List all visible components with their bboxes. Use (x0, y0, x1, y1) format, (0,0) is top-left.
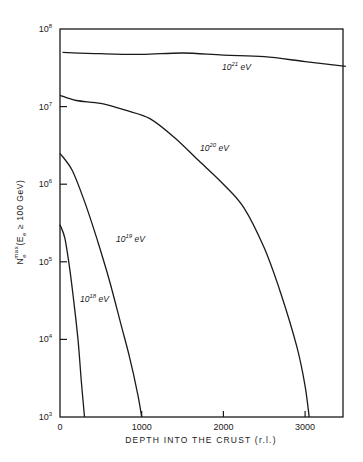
y-tick-label: 105 (39, 256, 53, 267)
y-tick-label: 103 (39, 411, 53, 422)
curve-20-ev (60, 95, 309, 417)
x-axis-title: DEPTH INTO THE CRUST (r.l.) (125, 435, 276, 445)
y-tick-label: 104 (39, 333, 53, 344)
curve-label-18-ev: 1018 eV (80, 293, 110, 304)
plot-area-border (60, 29, 343, 417)
x-tick-label: 2000 (213, 422, 233, 432)
x-tick-label: 0 (57, 422, 62, 432)
plot-frame (60, 29, 343, 417)
svg-text:Nemax(Ee ≥ 100 GeV): Nemax(Ee ≥ 100 GeV) (13, 180, 27, 265)
curve-label-19-ev: 1019 eV (116, 233, 146, 244)
y-tick-label: 108 (39, 23, 53, 34)
y-tick-label: 107 (39, 101, 53, 112)
curve-18-ev (60, 225, 85, 417)
curve-21-ev (62, 52, 345, 66)
curve-label-20-ev: 1020 eV (200, 142, 230, 153)
curve-label-21-ev: 1021 eV (222, 61, 252, 72)
chart: 1031041051061071080100020003000 1021 eV1… (0, 0, 363, 462)
x-tick-label: 1000 (132, 422, 152, 432)
data-curves (60, 52, 346, 417)
x-tick-label: 3000 (295, 422, 315, 432)
y-axis-title: Nemax(Ee ≥ 100 GeV) (13, 180, 27, 265)
y-tick-label: 106 (39, 178, 53, 189)
